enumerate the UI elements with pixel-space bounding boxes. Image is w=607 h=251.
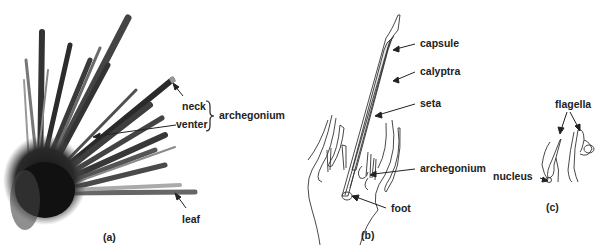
panel-c-sperm-drawing: flagella nucleus (c) — [460, 0, 607, 251]
label-foot: foot — [391, 203, 411, 214]
archegonia-cluster-image — [0, 0, 290, 251]
caption-c: (c) — [546, 202, 559, 213]
label-flagella: flagella — [555, 99, 591, 110]
panel-c-pointer-arrows — [540, 112, 580, 182]
sperm-cells-drawing — [460, 0, 607, 251]
caption-b: (b) — [361, 230, 374, 241]
label-archegonium-group: archegonium — [219, 110, 285, 121]
label-seta: seta — [420, 98, 441, 109]
label-capsule: capsule — [420, 38, 459, 49]
label-calyptra: calyptra — [420, 66, 460, 77]
caption-a: (a) — [103, 232, 116, 243]
panel-b-sporophyte-drawing: capsule calyptra seta archegonium foot (… — [290, 0, 460, 251]
panel-a-micrograph: neck venter archegonium leaf (a) — [0, 0, 290, 251]
label-leaf: leaf — [182, 214, 200, 225]
label-venter: venter — [176, 119, 208, 130]
label-neck: neck — [182, 101, 206, 112]
label-nucleus: nucleus — [493, 171, 533, 182]
